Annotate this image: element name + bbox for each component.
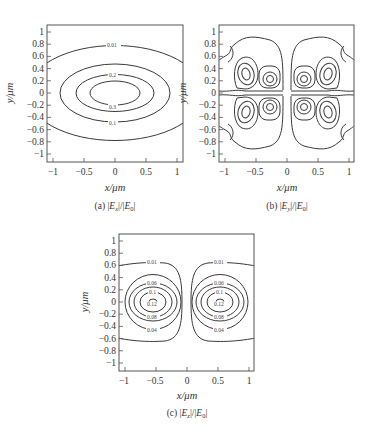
svg-text:0.04: 0.04 — [214, 327, 224, 333]
svg-text:0.8: 0.8 — [204, 39, 216, 49]
y-axis-label: y/μm — [177, 82, 188, 104]
svg-text:0.12: 0.12 — [214, 301, 224, 307]
svg-text:1: 1 — [111, 236, 116, 246]
plot-frame — [219, 25, 354, 162]
x-axis-label: x/μm — [176, 390, 198, 401]
plot-frame — [119, 234, 254, 371]
svg-text:1: 1 — [347, 167, 352, 177]
svg-text:−0.2: −0.2 — [27, 100, 44, 110]
svg-text:−1: −1 — [119, 376, 129, 386]
svg-text:0.8: 0.8 — [104, 248, 116, 258]
figure-canvas: 0.01 0.2 0.3 0.1 1 0.8 0.6 0.4 0.2 0 −0.… — [0, 0, 373, 435]
contour-label: 0.3 — [109, 104, 116, 110]
svg-text:−1: −1 — [206, 149, 216, 159]
svg-text:0.8: 0.8 — [32, 39, 44, 49]
x-axis-label: x/μm — [276, 182, 298, 193]
svg-text:0.06: 0.06 — [214, 280, 224, 286]
svg-text:0.4: 0.4 — [104, 273, 116, 283]
svg-text:−0.2: −0.2 — [199, 100, 216, 110]
y-axis: 1 0.8 0.6 0.4 0.2 0 −0.2 −0.4 −0.6 −0.8 … — [177, 27, 223, 159]
svg-text:0.1: 0.1 — [216, 289, 223, 295]
svg-text:0.08: 0.08 — [214, 314, 224, 320]
svg-text:−1: −1 — [48, 167, 58, 177]
svg-text:1: 1 — [247, 376, 252, 386]
panel-a: 0.01 0.2 0.3 0.1 1 0.8 0.6 0.4 0.2 0 −0.… — [4, 25, 203, 212]
svg-text:0: 0 — [211, 88, 216, 98]
svg-text:−0.6: −0.6 — [199, 125, 216, 135]
svg-text:0.5: 0.5 — [312, 167, 324, 177]
svg-text:0: 0 — [285, 167, 290, 177]
svg-text:0: 0 — [185, 376, 190, 386]
svg-text:−1: −1 — [34, 149, 44, 159]
x-axis: −1 −0.5 0 0.5 1 x/μm — [119, 367, 252, 401]
svg-text:0.01: 0.01 — [147, 259, 157, 265]
x-axis-label: x/μm — [104, 182, 126, 193]
svg-text:0.6: 0.6 — [104, 260, 116, 270]
y-axis: 1 0.8 0.6 0.4 0.2 0 −0.2 −0.4 −0.6 −0.8 … — [79, 236, 123, 368]
caption-a: (a) |Ex|/|E0| — [95, 201, 136, 212]
svg-text:0.06: 0.06 — [147, 280, 157, 286]
svg-text:0.4: 0.4 — [32, 64, 44, 74]
panel-b: 1 0.8 0.6 0.4 0.2 0 −0.2 −0.4 −0.6 −0.8 … — [177, 25, 354, 212]
contour-label: 0.1 — [109, 120, 116, 126]
svg-text:0.2: 0.2 — [32, 76, 44, 86]
svg-text:0.5: 0.5 — [212, 376, 224, 386]
panel-c-contours — [100, 263, 273, 342]
svg-text:0.12: 0.12 — [147, 301, 157, 307]
svg-text:−0.8: −0.8 — [99, 346, 116, 356]
x-axis: −1 −0.5 0 0.5 1 x/μm — [48, 158, 180, 193]
svg-text:−0.5: −0.5 — [75, 167, 92, 177]
y-axis-label: y/μm — [4, 82, 15, 104]
svg-text:−0.5: −0.5 — [246, 167, 263, 177]
caption-b: (b) |Ey|/|E0| — [266, 201, 308, 212]
svg-text:0: 0 — [113, 167, 118, 177]
contour-outer — [219, 37, 283, 90]
svg-text:0.1: 0.1 — [149, 289, 156, 295]
svg-text:0: 0 — [111, 297, 116, 307]
contour-label: 0.2 — [109, 72, 116, 78]
svg-text:−0.8: −0.8 — [199, 137, 216, 147]
svg-text:0: 0 — [39, 88, 44, 98]
svg-text:1: 1 — [175, 167, 180, 177]
svg-text:−0.5: −0.5 — [146, 376, 163, 386]
panel-b-contours — [219, 37, 354, 149]
y-axis-label: y/μm — [79, 291, 90, 313]
svg-text:1: 1 — [39, 27, 44, 37]
contour-0.3 — [90, 81, 140, 105]
svg-text:0.01: 0.01 — [214, 259, 224, 265]
svg-text:−0.6: −0.6 — [99, 334, 116, 344]
svg-text:0.2: 0.2 — [104, 285, 116, 295]
svg-text:0.4: 0.4 — [204, 64, 216, 74]
svg-text:−0.2: −0.2 — [99, 309, 116, 319]
panel-c: 0.01 0.06 0.1 0.12 0.08 0.04 0.01 0.06 0… — [79, 234, 273, 419]
svg-text:−0.4: −0.4 — [199, 112, 216, 122]
svg-text:0.04: 0.04 — [147, 327, 157, 333]
x-axis: −1 −0.5 0 0.5 1 x/μm — [219, 158, 352, 193]
svg-text:1: 1 — [211, 27, 216, 37]
svg-text:0.2: 0.2 — [204, 76, 216, 86]
svg-text:−1: −1 — [106, 358, 116, 368]
svg-text:0.6: 0.6 — [204, 51, 216, 61]
svg-text:−0.4: −0.4 — [27, 112, 44, 122]
caption-c: (c) |Ez|/|E0| — [167, 408, 208, 419]
svg-text:0.08: 0.08 — [147, 314, 157, 320]
y-axis: 1 0.8 0.6 0.4 0.2 0 −0.2 −0.4 −0.6 −0.8 … — [4, 27, 51, 159]
svg-text:0.5: 0.5 — [140, 167, 152, 177]
svg-text:−0.6: −0.6 — [27, 125, 44, 135]
svg-text:−0.4: −0.4 — [99, 321, 116, 331]
svg-text:0.6: 0.6 — [32, 51, 44, 61]
svg-text:−1: −1 — [219, 167, 229, 177]
contour-label: 0.01 — [107, 42, 117, 48]
svg-text:−0.8: −0.8 — [27, 137, 44, 147]
